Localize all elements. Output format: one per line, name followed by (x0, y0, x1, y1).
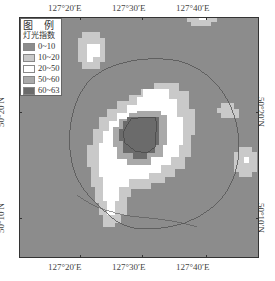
lon-label-bottom-127-30: 127°30′E (112, 262, 146, 272)
lon-label-top-127-40: 127°40′E (176, 3, 210, 13)
legend-label-20-50: 20~50 (38, 63, 60, 74)
legend-subtitle: 灯光指数 (23, 31, 59, 41)
lon-label-top-127-20: 127°20′E (48, 3, 82, 13)
legend-item-10-20: 10~20 (23, 52, 59, 63)
legend-swatch-60-63 (23, 87, 35, 95)
legend-swatch-50-60 (23, 76, 35, 84)
legend-item-20-50: 20~50 (23, 63, 59, 74)
legend-label-60-63: 60~63 (38, 85, 60, 96)
lat-label-left-50-10: 50°10′N (0, 203, 6, 233)
lon-label-bottom-127-40: 127°40′E (176, 262, 210, 272)
legend-item-0-10: 0~10 (23, 41, 59, 52)
city-core-60-63 (119, 117, 159, 159)
legend-swatch-10-20 (23, 54, 35, 62)
map-legend: 图 例 灯光指数 0~10 10~20 20~50 50~60 60~63 (20, 18, 62, 96)
legend-label-0-10: 0~10 (38, 41, 55, 52)
legend-item-50-60: 50~60 (23, 74, 59, 85)
lon-label-top-127-30: 127°30′E (112, 3, 146, 13)
lat-label-left-50-20: 50°20′N (0, 97, 6, 127)
legend-title: 图 例 (23, 20, 59, 31)
legend-item-60-63: 60~63 (23, 85, 59, 96)
legend-label-50-60: 50~60 (38, 74, 60, 85)
lon-label-bottom-127-20: 127°20′E (48, 262, 82, 272)
legend-label-10-20: 10~20 (38, 52, 60, 63)
legend-swatch-0-10 (23, 43, 35, 51)
legend-swatch-20-50 (23, 65, 35, 73)
